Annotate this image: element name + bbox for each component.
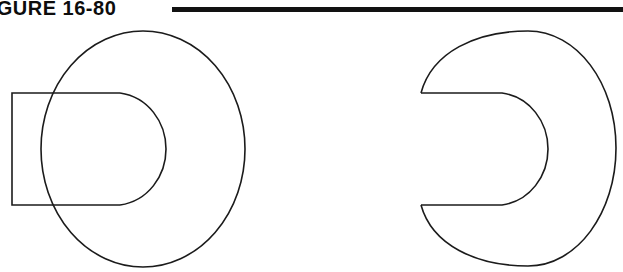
side-view-disc-outline	[421, 31, 616, 266]
drawing-canvas	[0, 0, 623, 272]
front-view-outer-circle	[41, 31, 245, 267]
figure-page: FIGURE 16-80	[0, 0, 623, 272]
technical-drawing-area	[0, 0, 623, 272]
front-view-slot-rectangle	[12, 93, 120, 205]
side-view-notch	[421, 93, 548, 205]
view-side-slotted-disc	[421, 31, 616, 266]
view-front-with-rectangle	[12, 31, 245, 267]
front-view-slot-arc	[120, 93, 166, 205]
